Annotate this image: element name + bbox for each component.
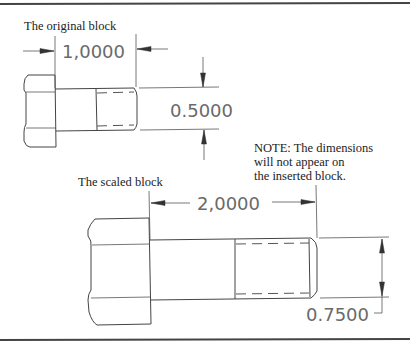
original-length-value: 1,0000 — [62, 41, 125, 62]
scaled-thread-dash-bottom — [236, 293, 309, 294]
original-thread-dash-top — [97, 92, 134, 93]
original-diameter-ext-top — [139, 87, 219, 88]
arrow-down-icon — [201, 73, 206, 87]
bottom-border — [0, 339, 410, 340]
scaled-diameter-dimension: 0.7500 — [306, 237, 389, 325]
original-length-dimension: 1,0000 — [23, 34, 168, 88]
top-border — [0, 3, 410, 4]
scaled-bolt-shank — [150, 238, 317, 300]
original-diameter-value: 0.5000 — [170, 100, 233, 121]
scaled-block-label: The scaled block — [78, 175, 163, 189]
scaled-diameter-ext-top — [319, 237, 389, 238]
scaled-head-facet-top — [92, 244, 150, 245]
note-line-3: the inserted block. — [254, 169, 346, 183]
original-bolt-head — [24, 75, 56, 147]
original-bolt — [24, 75, 137, 147]
arrow-down-icon — [380, 282, 385, 296]
original-diameter-dimension: 0.5000 — [139, 57, 233, 160]
arrow-right-icon — [40, 49, 54, 54]
note-line-1: NOTE: The dimensions — [254, 141, 373, 155]
scaled-bolt-head — [88, 218, 151, 325]
scaled-length-value: 2,0000 — [197, 193, 260, 214]
arrow-right-icon — [301, 200, 315, 205]
scaled-diameter-value: 0.7500 — [306, 304, 369, 325]
scaled-length-ext-right — [316, 185, 317, 238]
arrow-up-icon — [380, 239, 385, 253]
arrow-up-icon — [202, 130, 207, 144]
arrow-left-icon — [151, 201, 165, 206]
scaled-head-facet-bottom — [91, 297, 151, 298]
drawing-canvas: The original block 1,0000 0.5000 NOTE: T… — [0, 0, 410, 344]
drawing-svg: The original block 1,0000 0.5000 NOTE: T… — [0, 0, 410, 344]
note-text: NOTE: The dimensions will not appear on … — [254, 141, 373, 183]
original-block-label: The original block — [24, 19, 117, 33]
scaled-thread-dash-top — [236, 243, 309, 244]
arrow-left-icon — [137, 47, 151, 52]
scaled-length-dimension: 2,0000 — [149, 185, 317, 240]
note-line-2: will not appear on — [254, 155, 345, 169]
original-thread-dash-bottom — [97, 125, 134, 126]
scaled-bolt — [88, 218, 317, 325]
original-diameter-ext-bottom — [140, 129, 219, 130]
scaled-thread-end-line — [309, 239, 310, 297]
original-thread-start-line — [96, 89, 97, 130]
scaled-diameter-ext-bottom — [320, 297, 389, 298]
